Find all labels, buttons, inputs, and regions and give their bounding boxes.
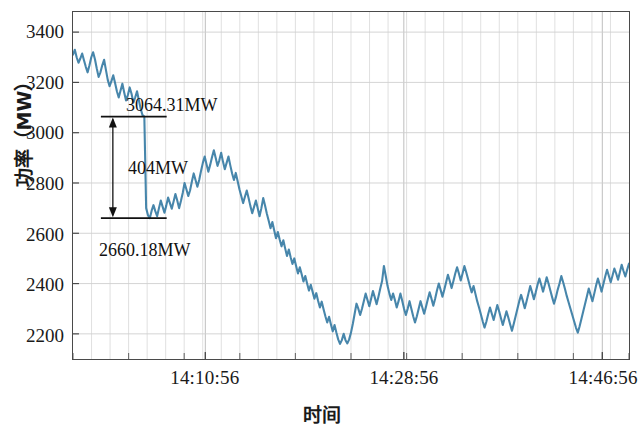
drop-annotation-markers — [73, 12, 629, 359]
x-tick-label: 14:46:56 — [569, 368, 638, 387]
y-tick-label: 3400 — [0, 21, 64, 43]
y-tick-label: 3000 — [0, 122, 64, 144]
annotation-drop-magnitude: 404MW — [128, 159, 188, 177]
annotation-upper-value: 3064.31MW — [126, 96, 218, 114]
x-tick-label: 14:28:56 — [369, 368, 438, 387]
y-tick-label: 2200 — [0, 325, 64, 347]
y-tick-label: 2800 — [0, 173, 64, 195]
annotation-lower-value: 2660.18MW — [99, 241, 191, 259]
x-axis-title: 时间 — [0, 400, 643, 427]
y-tick-label: 3200 — [0, 72, 64, 94]
plot-area — [72, 11, 630, 360]
power-time-chart: 功率（MW） 2200240026002800300032003400 14:1… — [0, 0, 643, 432]
y-tick-label: 2600 — [0, 224, 64, 246]
y-tick-label: 2400 — [0, 274, 64, 296]
x-tick-label: 14:10:56 — [170, 368, 239, 387]
